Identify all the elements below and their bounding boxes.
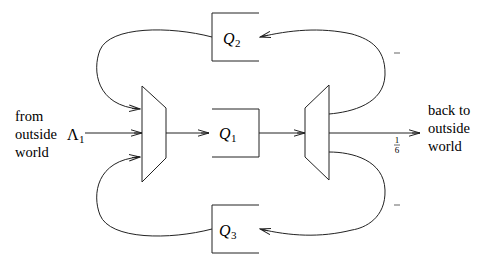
- q3-to-merger-arrow: [97, 157, 212, 236]
- prob-to-outside: 1 6: [394, 135, 400, 155]
- queue-q2-subscript: 2: [235, 37, 241, 49]
- queueing-network-diagram: from outside world Λ 1 Q 1 back to outsi…: [0, 0, 483, 268]
- prob-to-outside-num: 1: [395, 135, 400, 145]
- queue-q3-symbol: Q: [219, 222, 231, 239]
- source-label: from outside world: [15, 108, 57, 160]
- queue-q1-symbol: Q: [219, 125, 231, 142]
- merger-node: [142, 86, 166, 182]
- queue-q1-label: Q 1: [219, 125, 237, 144]
- sink-label-line-3: world: [428, 138, 463, 154]
- queue-q1-subscript: 1: [231, 132, 237, 144]
- source-label-line-1: from: [15, 108, 44, 124]
- sink-label: back to outside world: [428, 102, 470, 154]
- arrival-rate-label: Λ 1: [67, 126, 85, 145]
- queue-q2-symbol: Q: [223, 30, 235, 47]
- prob-to-outside-den: 6: [395, 145, 400, 155]
- sink-label-line-2: outside: [428, 120, 470, 136]
- queue-q3-subscript: 3: [231, 229, 237, 241]
- arrival-rate-subscript: 1: [79, 133, 85, 145]
- queue-q3-label: Q 3: [219, 222, 237, 241]
- splitter-node: [305, 85, 329, 180]
- source-label-line-3: world: [15, 144, 50, 160]
- sink-label-line-1: back to: [428, 102, 470, 118]
- splitter-to-q2-arrow: [260, 30, 385, 114]
- source-label-line-2: outside: [15, 126, 57, 142]
- splitter-to-q3-arrow: [260, 152, 385, 235]
- queue-q2-label: Q 2: [223, 30, 241, 49]
- arrival-rate-symbol: Λ: [67, 126, 79, 143]
